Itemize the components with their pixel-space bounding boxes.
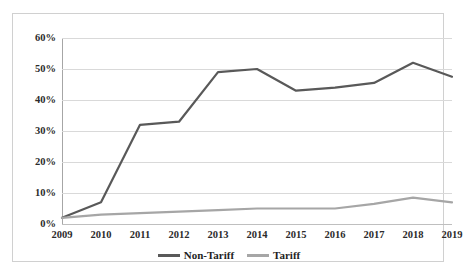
series-line-tariff <box>62 198 452 218</box>
x-axis-baseline <box>62 224 452 225</box>
x-tick-label: 2015 <box>274 230 318 241</box>
x-tick-label: 2019 <box>430 230 467 241</box>
x-tick-label: 2016 <box>313 230 357 241</box>
x-tick-label: 2009 <box>40 230 84 241</box>
series-lines <box>62 38 452 224</box>
legend-item-tariff[interactable]: Tariff <box>247 250 300 261</box>
y-tick-label: 0% <box>13 219 56 230</box>
x-tick-label: 2017 <box>352 230 396 241</box>
legend-swatch-icon <box>247 254 269 257</box>
chart-frame: 0%10%20%30%40%50%60% 2009201020112012201… <box>12 13 444 262</box>
y-tick-label: 20% <box>13 157 56 168</box>
plot-area <box>62 38 452 224</box>
x-tick-label: 2018 <box>391 230 435 241</box>
legend-swatch-icon <box>158 254 180 257</box>
x-tick-label: 2014 <box>235 230 279 241</box>
chart-legend: Non-TariffTariff <box>13 250 445 261</box>
x-tick-label: 2010 <box>79 230 123 241</box>
y-tick-label: 30% <box>13 126 56 137</box>
legend-item-label: Non-Tariff <box>184 250 234 261</box>
y-tick-label: 40% <box>13 95 56 106</box>
y-tick-label: 50% <box>13 64 56 75</box>
y-tick-label: 10% <box>13 188 56 199</box>
legend-item-non-tariff[interactable]: Non-Tariff <box>158 250 234 261</box>
legend-item-label: Tariff <box>273 250 300 261</box>
x-tick-label: 2011 <box>118 230 162 241</box>
series-line-non-tariff <box>62 63 452 218</box>
x-tick-label: 2013 <box>196 230 240 241</box>
y-tick-label: 60% <box>13 33 56 44</box>
x-tick-label: 2012 <box>157 230 201 241</box>
